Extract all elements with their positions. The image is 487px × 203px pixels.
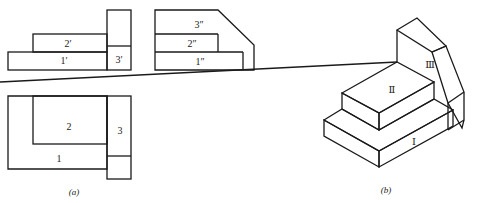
label-1-dprime: 1″: [195, 56, 204, 67]
label-3: 3: [118, 125, 123, 136]
label-I: Ⅰ: [412, 136, 416, 147]
label-3-dprime: 3″: [194, 19, 203, 30]
caption-b: (b): [381, 185, 392, 195]
label-2: 2: [67, 121, 72, 132]
label-III: Ⅲ: [425, 59, 435, 70]
top-block-3: [107, 96, 131, 179]
front-view: 1′ 2′ 3′: [8, 10, 131, 70]
iso-block1-top: [324, 99, 453, 151]
caption-a: (a): [69, 187, 80, 197]
label-1-prime: 1′: [60, 55, 67, 66]
front-block-1: [8, 52, 107, 70]
side-view: 1″ 2″ 3″: [155, 10, 254, 70]
iso-block3-top: [397, 18, 446, 52]
label-1: 1: [57, 153, 62, 164]
iso-block1-side: [379, 110, 453, 167]
label-2-dprime: 2″: [187, 38, 196, 49]
iso-block2-side: [379, 82, 434, 130]
drawing-canvas: 1′ 2′ 3′ 1″ 2″ 3″ 1 2 3 (a): [0, 0, 487, 203]
iso-block3-mid: [448, 92, 464, 103]
top-view: 1 2 3: [8, 96, 131, 179]
label-3-prime: 3′: [115, 54, 122, 65]
label-II: Ⅱ: [389, 84, 396, 95]
label-2-prime: 2′: [64, 38, 71, 49]
top-block-2: [33, 96, 107, 144]
iso-block1-front: [324, 120, 379, 167]
